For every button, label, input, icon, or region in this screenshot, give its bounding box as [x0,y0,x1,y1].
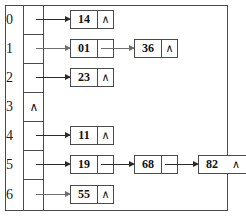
arrow-bucket-0-to-node-14 [36,19,70,20]
node-value: 01 [71,40,97,57]
node-82: 82 ∧ [198,155,246,174]
node-next-null: ∧ [97,69,113,86]
bucket-slot-3-null: ∧ [24,92,44,121]
node-36: 36 ∧ [134,39,178,58]
node-next-null: ∧ [97,127,113,144]
arrow-node-19-to-node-68 [101,164,134,165]
node-value: 36 [135,40,161,57]
arrow-bucket-6-to-node-55 [36,194,70,195]
bucket-slot-6 [24,179,44,211]
bucket-index-5: 5 [0,150,19,179]
arrow-bucket-2-to-node-23 [36,77,70,78]
node-value: 19 [71,156,97,173]
node-55: 55 ∧ [70,185,114,204]
node-next-null: ∧ [225,156,246,173]
bucket-index-4: 4 [0,121,19,150]
node-next-null: ∧ [97,11,113,28]
node-value: 68 [135,156,161,173]
node-next-null: ∧ [161,40,177,57]
bucket-index-6: 6 [0,179,19,211]
bucket-index-1: 1 [0,34,19,63]
bucket-index-3: 3 [0,92,19,121]
node-value: 11 [71,127,97,144]
arrow-bucket-1-to-node-01 [36,48,70,49]
node-value: 55 [71,186,97,203]
node-next-null: ∧ [97,186,113,203]
bucket-index-2: 2 [0,63,19,92]
node-value: 23 [71,69,97,86]
arrow-bucket-5-to-node-19 [36,164,70,165]
node-value: 14 [71,11,97,28]
bucket-index-0: 0 [0,5,19,34]
node-23: 23 ∧ [70,68,114,87]
hash-table-chaining-diagram: 0 14 ∧ 1 01 36 ∧ 2 23 ∧ 3 ∧ 4 11 ∧ 5 19 [0,0,246,217]
node-14: 14 ∧ [70,10,114,29]
node-value: 82 [199,156,225,173]
arrow-node-01-to-node-36 [101,48,134,49]
arrow-node-68-to-node-82 [165,164,198,165]
arrow-bucket-4-to-node-11 [36,135,70,136]
node-11: 11 ∧ [70,126,114,145]
